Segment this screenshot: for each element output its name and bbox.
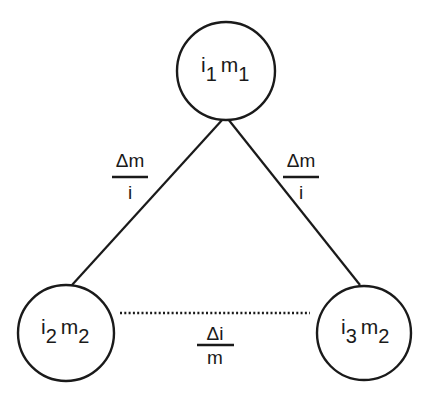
node-bottom-right-var2: m — [361, 315, 379, 338]
edge-top-to-bottom-left — [72, 119, 223, 285]
node-top: i1m1 — [177, 22, 275, 120]
diagram-canvas: i1m1 i2m2 i3m2 Δm i Δm i Δi m — [0, 0, 433, 402]
node-bottom-left-sub2: 2 — [78, 325, 89, 347]
node-bottom-left: i2m2 — [18, 285, 114, 381]
node-top-var2: m — [221, 53, 239, 76]
edge-top-to-bottom-right — [228, 119, 360, 285]
node-bottom-right-sub1: 3 — [346, 325, 357, 347]
edge-label-left-denominator: i — [128, 182, 132, 203]
node-bottom-left-var2: m — [61, 315, 79, 338]
edge-label-left-numerator: Δm — [116, 150, 145, 171]
edge-label-bottom: Δi m — [197, 323, 234, 368]
diagram-svg: i1m1 i2m2 i3m2 Δm i Δm i Δi m — [0, 0, 433, 402]
edge-label-bottom-numerator: Δi — [207, 323, 224, 344]
node-bottom-right-sub2: 2 — [378, 325, 389, 347]
node-bottom-left-sub1: 2 — [46, 325, 57, 347]
edge-label-bottom-denominator: m — [207, 347, 223, 368]
node-top-sub1: 1 — [206, 63, 217, 85]
edge-label-right-denominator: i — [299, 182, 303, 203]
edge-label-left: Δm i — [112, 150, 148, 203]
edge-label-right-numerator: Δm — [287, 150, 316, 171]
node-bottom-right: i3m2 — [317, 286, 411, 380]
node-top-sub2: 1 — [238, 63, 249, 85]
